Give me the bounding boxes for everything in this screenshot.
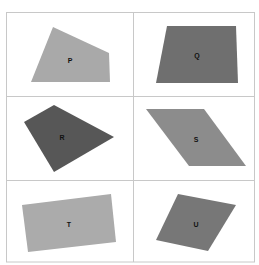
cell-t: T — [22, 194, 116, 252]
cell-r: R — [24, 105, 114, 172]
shape-s-label: S — [194, 136, 199, 143]
shape-t-label: T — [67, 221, 72, 228]
shape-r-label: R — [59, 134, 64, 141]
cell-p: P — [31, 27, 110, 82]
cell-u: U — [156, 194, 236, 251]
shape-q-label: Q — [194, 52, 200, 60]
shape-p-label: P — [68, 57, 73, 64]
cell-s: S — [146, 109, 246, 166]
shape-r-kite — [24, 105, 114, 172]
shape-p-quadrilateral — [31, 27, 110, 82]
shape-u-label: U — [193, 221, 198, 228]
cell-q: Q — [156, 26, 238, 83]
shape-grid-diagram: P Q R S T U — [0, 0, 259, 265]
